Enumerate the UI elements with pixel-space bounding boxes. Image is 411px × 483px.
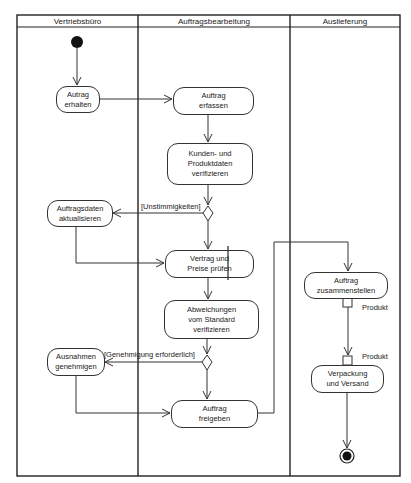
final-node [340, 449, 354, 463]
guard-genehmigung-erforderlich: [Genehmigung erforderlich] [104, 350, 195, 359]
action-verpackung-versand[interactable]: Verpackung und Versand [311, 365, 384, 393]
initial-node [71, 36, 83, 48]
output-pin-produkt [343, 298, 352, 307]
input-pin-produkt [343, 356, 352, 365]
lane-title-vertriebsbuero: Vertriebsbüro [17, 16, 138, 27]
pin-label-output-produkt: Produkt [362, 303, 388, 312]
lane-title-auslieferung: Auslieferung [290, 16, 400, 27]
decision-node-2 [202, 355, 212, 370]
guard-unstimmigkeiten: [Unstimmigkeiten] [141, 202, 201, 211]
action-auftrag-freigeben[interactable]: Auftrag freigeben [171, 400, 258, 428]
pin-label-input-produkt: Produkt [362, 352, 388, 361]
activity-diagram: Vertriebsbüro Auftragsbearbeitung Auslie… [0, 0, 411, 483]
action-auftrag-erfassen[interactable]: Auftrag erfassen [173, 87, 254, 115]
lane-title-auftragsbearbeitung: Auftragsbearbeitung [138, 16, 290, 27]
action-auftrag-zusammenstellen[interactable]: Auftrag zusammenstellen [304, 272, 388, 299]
action-auftragsdaten-aktualisieren[interactable]: Auftragsdaten aktualisieren [47, 200, 113, 227]
action-auftrag-erhalten[interactable]: Autrag erhalten [56, 86, 100, 113]
decision-node-1 [203, 206, 213, 221]
action-ausnahmen-genehmigen[interactable]: Ausnahmen genehmigen [47, 348, 105, 376]
action-abweichungen-verifizieren[interactable]: Abweichungen vom Standard verifizieren [164, 300, 259, 339]
action-kunden-produktdaten-verifizieren[interactable]: Kunden- und Produktdaten verifizieren [167, 143, 253, 185]
action-vertrag-preise-pruefen[interactable]: Vertrag und Preise prüfen [165, 250, 254, 278]
